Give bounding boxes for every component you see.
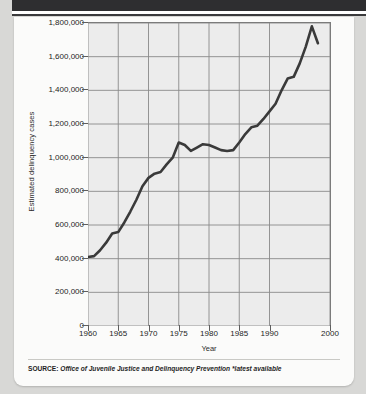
y-tick-label: 1,800,000 — [22, 18, 84, 27]
page-top-edge-rule — [12, 14, 366, 16]
y-tick-label: 200,000 — [22, 287, 84, 296]
x-tick-mark — [239, 325, 240, 331]
x-tick-mark — [209, 325, 210, 331]
y-tick-mark — [82, 291, 88, 292]
delinquency-cases-line — [88, 26, 318, 257]
y-tick-mark — [82, 123, 88, 124]
x-gridlines — [88, 23, 330, 326]
y-tick-label: 1,000,000 — [22, 152, 84, 161]
y-tick-label: 1,400,000 — [22, 85, 84, 94]
y-tick-mark — [82, 258, 88, 259]
x-axis-title-text: Year — [201, 344, 216, 353]
x-tick-mark — [270, 325, 271, 331]
y-tick-mark — [82, 89, 88, 90]
source-label: SOURCE: — [28, 365, 58, 372]
y-axis-title: Estimated delinquency cases — [27, 92, 36, 232]
y-tick-label: 600,000 — [22, 220, 84, 229]
x-axis-title: Year — [14, 344, 354, 353]
y-tick-label: 1,600,000 — [22, 51, 84, 60]
chart-figure: Estimated delinquency cases 0200,000400,… — [14, 17, 354, 386]
page-top-edge-bar — [12, 0, 366, 11]
x-tick-mark — [179, 325, 180, 331]
x-tick-mark — [118, 325, 119, 331]
source-text: Office of Juvenile Justice and Delinquen… — [60, 365, 281, 372]
source-note: SOURCE: Office of Juvenile Justice and D… — [28, 365, 348, 372]
y-tick-label: 400,000 — [22, 253, 84, 262]
plot-area — [88, 22, 331, 326]
y-tick-mark — [82, 224, 88, 225]
x-tick-mark — [149, 325, 150, 331]
y-tick-mark — [82, 157, 88, 158]
x-tick-mark — [88, 325, 89, 331]
x-tick-mark — [330, 325, 331, 331]
y-tick-mark — [82, 56, 88, 57]
chart-canvas — [88, 23, 330, 326]
page-card: Estimated delinquency cases 0200,000400,… — [14, 17, 354, 386]
y-tick-label: 1,200,000 — [22, 119, 84, 128]
y-tick-mark — [82, 22, 88, 23]
y-tick-mark — [82, 190, 88, 191]
source-divider — [28, 359, 340, 360]
y-tick-label: 800,000 — [22, 186, 84, 195]
